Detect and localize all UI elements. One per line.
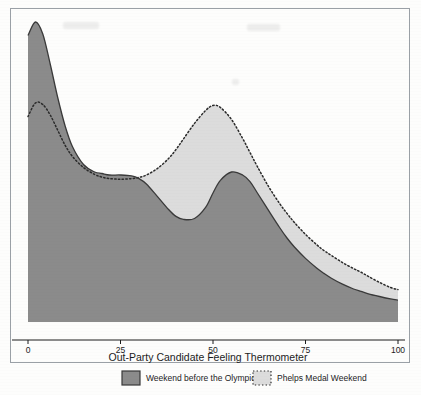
x-tick-label: 0 [26,345,31,355]
density-chart: 0255075100 Out-Party Candidate Feeling T… [0,0,421,395]
legend-swatch-weekend-before-olympics [122,371,140,385]
chart-legend: Weekend before the Olympics Phelps Medal… [122,371,367,385]
legend-swatch-phelps-medal-weekend [253,371,271,385]
x-axis-title: Out-Party Candidate Feeling Thermometer [109,351,308,363]
x-tick-label: 100 [391,345,405,355]
figure-canvas: 0255075100 Out-Party Candidate Feeling T… [0,0,421,395]
legend-label-weekend-before-olympics: Weekend before the Olympics [146,373,260,383]
legend-label-phelps-medal-weekend: Phelps Medal Weekend [277,373,367,383]
